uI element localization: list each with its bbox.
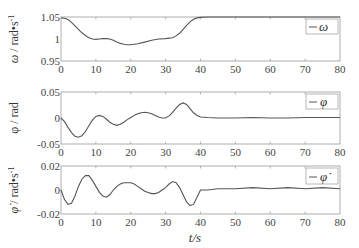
legend-omega: ω bbox=[306, 19, 338, 34]
x-tick-label: 0 bbox=[58, 216, 64, 228]
x-tick-label: 40 bbox=[195, 63, 207, 75]
y-tick-label: 0.02 bbox=[41, 160, 60, 172]
figure: 0.9511.05 01020304050607080 ω ω / rad•s-… bbox=[0, 0, 359, 248]
x-tick-label: 30 bbox=[160, 146, 172, 158]
y-tick-label: 1 bbox=[55, 33, 61, 45]
line-omega bbox=[61, 17, 340, 45]
y-axis-label-phi-dot: φ̇ / rad•s-1 bbox=[7, 167, 22, 214]
x-tick-label: 30 bbox=[160, 216, 172, 228]
x-tick-label: 10 bbox=[90, 63, 102, 75]
panel-phi: -0.0500.05 01020304050607080 φ φ / rad bbox=[7, 86, 346, 158]
x-ticks-phi: 01020304050607080 bbox=[58, 92, 346, 158]
x-tick-label: 50 bbox=[230, 63, 242, 75]
y-tick-label: -0.05 bbox=[37, 138, 60, 150]
y-tick-label: 1.05 bbox=[41, 11, 61, 23]
x-tick-label: 40 bbox=[195, 216, 207, 228]
x-ticks-phi-dot: 01020304050607080 bbox=[58, 166, 346, 228]
y-tick-label: 0 bbox=[55, 112, 61, 124]
x-tick-label: 30 bbox=[160, 63, 172, 75]
y-ticks-omega: 0.9511.05 bbox=[41, 11, 61, 67]
x-ticks-omega: 01020304050607080 bbox=[58, 17, 346, 75]
x-tick-label: 60 bbox=[265, 216, 277, 228]
x-tick-label: 70 bbox=[300, 146, 312, 158]
x-tick-label: 60 bbox=[265, 63, 277, 75]
x-tick-label: 80 bbox=[335, 216, 347, 228]
x-tick-label: 10 bbox=[90, 216, 102, 228]
legend-label-phi: φ bbox=[320, 94, 327, 109]
y-tick-label: 0.05 bbox=[41, 86, 61, 98]
y-ticks-phi: -0.0500.05 bbox=[37, 86, 60, 150]
legend-phi-dot: φ̇ bbox=[306, 168, 338, 184]
y-axis-label-phi: φ / rad bbox=[7, 102, 21, 134]
y-tick-label: -0.02 bbox=[37, 208, 60, 220]
line-phi bbox=[61, 103, 340, 137]
x-tick-label: 20 bbox=[125, 63, 137, 75]
x-tick-label: 50 bbox=[230, 216, 242, 228]
x-tick-label: 20 bbox=[125, 216, 137, 228]
x-tick-label: 20 bbox=[125, 146, 137, 158]
x-tick-label: 60 bbox=[265, 146, 277, 158]
y-axis-label-omega: ω / rad•s-1 bbox=[7, 15, 22, 64]
x-tick-label: 70 bbox=[300, 216, 312, 228]
x-tick-label: 50 bbox=[230, 146, 242, 158]
x-tick-label: 0 bbox=[58, 146, 64, 158]
line-phi-dot bbox=[61, 176, 340, 206]
x-tick-label: 10 bbox=[90, 146, 102, 158]
x-tick-label: 80 bbox=[335, 63, 347, 75]
x-tick-label: 80 bbox=[335, 146, 347, 158]
panel-phi-dot: -0.0200.02 01020304050607080 φ̇ φ̇ / rad… bbox=[7, 160, 347, 228]
legend-phi: φ bbox=[306, 94, 338, 109]
y-tick-label: 0 bbox=[55, 184, 61, 196]
legend-label-omega: ω bbox=[319, 19, 328, 34]
y-ticks-phi-dot: -0.0200.02 bbox=[37, 160, 60, 220]
panel-omega: 0.9511.05 01020304050607080 ω ω / rad•s-… bbox=[7, 11, 347, 75]
x-tick-label: 0 bbox=[58, 63, 64, 75]
x-tick-label: 70 bbox=[300, 63, 312, 75]
x-axis-label: t/s bbox=[189, 230, 201, 245]
x-tick-label: 40 bbox=[195, 146, 207, 158]
